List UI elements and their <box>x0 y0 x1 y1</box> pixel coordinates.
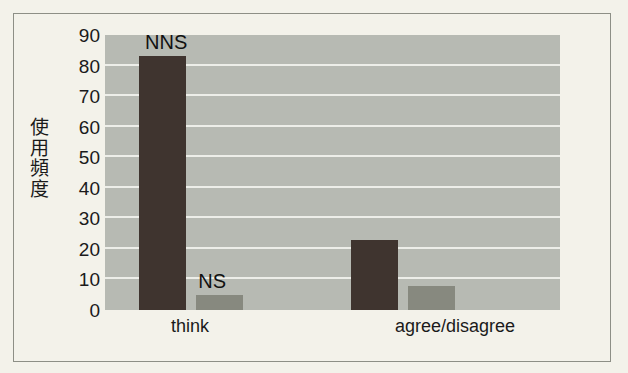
chart-figure: 使 用 頻 度 9080706050403020100 NNSNS think … <box>0 0 628 373</box>
series-annotation-nns: NNS <box>145 35 187 54</box>
y-tick-label: 50 <box>60 148 100 167</box>
y-tick-label: 0 <box>60 301 100 320</box>
bar-nns-agree-disagree <box>351 240 398 310</box>
y-tick-label: 40 <box>60 179 100 198</box>
x-axis-label-agree-disagree: agree/disagree <box>355 316 555 337</box>
y-axis-tick-labels: 9080706050403020100 <box>55 35 100 310</box>
y-tick-label: 10 <box>60 270 100 289</box>
y-tick-label: 30 <box>60 209 100 228</box>
plot-area: NNSNS <box>105 35 560 310</box>
series-annotation-ns: NS <box>198 270 226 293</box>
y-tick-label: 20 <box>60 240 100 259</box>
y-axis-title-char-4: 度 <box>26 180 52 201</box>
bar-nns-think <box>139 56 186 310</box>
y-axis-title-char-1: 使 <box>26 118 52 139</box>
y-axis-title: 使 用 頻 度 <box>26 118 52 200</box>
y-axis-title-char-3: 頻 <box>26 159 52 180</box>
x-axis-label-think: think <box>120 316 260 337</box>
y-tick-label: 80 <box>60 57 100 76</box>
y-axis-title-char-2: 用 <box>26 139 52 160</box>
bar-ns-think <box>196 295 243 310</box>
y-tick-label: 70 <box>60 87 100 106</box>
y-tick-label: 90 <box>60 26 100 45</box>
y-tick-label: 60 <box>60 118 100 137</box>
bar-ns-agree-disagree <box>408 286 455 310</box>
